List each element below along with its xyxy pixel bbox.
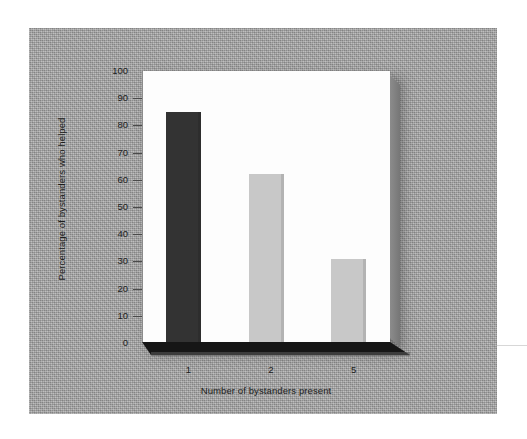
y-axis-tick — [133, 207, 142, 208]
y-axis-tick — [133, 153, 142, 154]
y-axis-tick — [133, 316, 142, 317]
bars-layer — [142, 71, 390, 343]
y-axis-tick-label: 40 — [88, 229, 128, 239]
y-axis-tick-label: 80 — [88, 120, 128, 130]
bar — [331, 259, 366, 343]
y-axis-tick-label-text: 50 — [88, 202, 128, 212]
y-axis-tick-label: 100 — [88, 66, 128, 76]
x-axis-tick-label: 1 — [165, 364, 211, 375]
y-axis-tick-label-text: 90 — [88, 93, 128, 103]
y-axis-tick-label-text: 10 — [88, 311, 128, 321]
y-axis-tick-label-text: 20 — [88, 284, 128, 294]
y-axis-tick-label-text: 60 — [88, 175, 128, 185]
x-axis-tick-label: 5 — [331, 364, 377, 375]
y-axis-tick-label: 60 — [88, 175, 128, 185]
plot-area-3d-side-face — [389, 75, 400, 347]
bar-shading — [363, 259, 366, 343]
y-axis-tick-label-text: 80 — [88, 120, 128, 130]
bar-shading — [281, 174, 284, 343]
y-axis-tick-label: 70 — [88, 148, 128, 158]
y-axis-tick — [133, 234, 142, 235]
y-axis-tick — [133, 98, 142, 99]
y-axis-tick-label-text: 0 — [88, 338, 128, 348]
y-axis-tick-label-text: 100 — [88, 66, 128, 76]
bar — [166, 112, 201, 343]
y-axis-tick-label-text: 70 — [88, 148, 128, 158]
y-axis-tick-label: 30 — [88, 256, 128, 266]
y-axis-tick-label-text: 30 — [88, 256, 128, 266]
y-axis-tick-label: 10 — [88, 311, 128, 321]
y-axis-tick-label: 20 — [88, 284, 128, 294]
y-axis-tick-label-text: 40 — [88, 229, 128, 239]
bar-shading — [198, 112, 201, 343]
y-axis-tick-label: 50 — [88, 202, 128, 212]
x-axis-title: Number of bystanders present — [142, 385, 390, 396]
x-axis-tick-label: 2 — [248, 364, 294, 375]
y-axis-tick-label: 90 — [88, 93, 128, 103]
y-axis-tick — [133, 289, 142, 290]
bar — [249, 174, 284, 343]
y-axis-tick — [133, 125, 142, 126]
y-axis-title: Percentage of bystanders who helped — [56, 121, 67, 281]
y-axis-tick — [133, 180, 142, 181]
bar-chart: 0102030405060708090100 Percentage of bys… — [0, 0, 527, 439]
x-axis-floor-edge — [151, 352, 410, 356]
y-axis-tick-label: 0 — [88, 338, 128, 348]
y-axis-tick — [133, 261, 142, 262]
